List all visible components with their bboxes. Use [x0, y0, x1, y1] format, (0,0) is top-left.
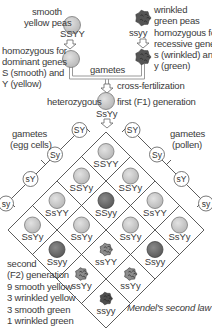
egg-gamete-sy: sY — [23, 172, 38, 187]
punnett-cell-ssyy: Ssyy — [47, 242, 68, 267]
cell-genotype-label: SSYy — [119, 182, 143, 193]
punnett-cell-ssyy: SSyy — [95, 193, 117, 218]
smooth-parent-desc-1: homozygous for — [2, 45, 67, 56]
svg-text:Sy: Sy — [152, 150, 163, 160]
svg-text:Sy: Sy — [50, 150, 61, 160]
wrinkled-parent-label-2: green peas — [154, 15, 200, 26]
f2-label-1: second — [7, 258, 36, 269]
smooth-parent-desc-3: S (smooth) and — [2, 67, 64, 78]
cell-genotype-label: ssYY — [95, 256, 118, 267]
punnett-cell-ssyy: SsYy — [119, 217, 141, 242]
egg-gametes-label-1: gametes — [12, 128, 47, 139]
cell-genotype-label: Ssyy — [47, 256, 68, 267]
cell-genotype-label: SsYy — [70, 231, 92, 242]
cell-genotype-label: SsYy — [168, 231, 190, 242]
cell-genotype-label: SSyy — [95, 207, 117, 218]
cell-genotype-label: ssYy — [71, 280, 92, 291]
f2-label-2: (F2) generation — [7, 269, 69, 280]
cell-genotype-label: SsYY — [143, 207, 167, 218]
pollen-gamete-sy: sy — [199, 196, 213, 211]
punnett-cell-ssyy: SsYY — [143, 193, 167, 218]
cell-genotype-label: SSYY — [93, 158, 119, 169]
pea-wrinkled-yellow — [125, 268, 137, 281]
pea-wrinkled-green-parent — [136, 10, 151, 26]
pea-wrinkled-green — [100, 292, 112, 305]
pollen-gametes-label-1: gametes — [170, 128, 205, 139]
f1-right-label: first (F1) generation — [117, 96, 196, 107]
wrinkled-parent-desc-4: y (green) — [154, 60, 190, 71]
punnett-cell-ssyy: ssYy — [71, 268, 92, 291]
svg-text:sY: sY — [177, 174, 187, 184]
smooth-parent-label-1: smooth — [32, 6, 62, 17]
wrinkled-parent-desc-1: homozygous for — [154, 27, 212, 38]
svg-text:sy: sy — [2, 199, 11, 209]
punnett-cell-ssyy: SsYy — [70, 217, 92, 242]
smooth-parent-label-2: yellow peas — [24, 17, 71, 28]
f2-result-2: 3 wrinkled yellow — [7, 292, 75, 303]
punnett-cell-ssyy: ssYy — [120, 268, 141, 291]
pea-wrinkled-green-parent-2 — [136, 49, 151, 65]
cell-genotype-label: SsYY — [45, 207, 69, 218]
f2-result-3: 3 smooth green — [7, 304, 70, 315]
smooth-parent-genotype: SSYY — [60, 28, 85, 39]
punnett-cell-ssyy: ssyy — [97, 292, 116, 315]
punnett-cell-ssyy: SsYy — [168, 217, 190, 242]
arrow-down-icon — [101, 119, 113, 128]
punnett-cell-ssyy: Ssyy — [145, 242, 166, 267]
punnett-cell-ssyy: SSYy — [70, 168, 94, 193]
punnett-cell-ssyy: SSYy — [119, 168, 143, 193]
cell-genotype-label: ssyy — [97, 305, 116, 316]
egg-gametes-label-2: (egg cells) — [10, 139, 52, 150]
cell-genotype-label: Ssyy — [145, 256, 166, 267]
cell-genotype-label: ssYy — [120, 280, 141, 291]
cell-genotype-label: SsYy — [119, 231, 141, 242]
svg-text:SY: SY — [74, 125, 86, 135]
punnett-cell-ssyy: SsYy — [21, 217, 43, 242]
pollen-gamete-sy: SY — [125, 123, 140, 138]
cross-fertilization-label: cross-fertilization — [117, 80, 184, 91]
arrow-down-icon — [101, 84, 113, 93]
wrinkled-parent-desc-3: s (wrinkled) and — [154, 49, 212, 60]
wrinkled-parent-genotype: ssyy — [129, 27, 147, 38]
wrinkled-parent-label-1: wrinkled — [154, 4, 187, 15]
f2-result-1: 9 smooth yellow — [7, 281, 72, 292]
pea-wrinkled-yellow — [76, 268, 88, 281]
punnett-cell-ssyy: ssYY — [95, 243, 118, 266]
pollen-gametes-label-2: (pollen) — [172, 139, 202, 150]
smooth-parent-desc-4: Y (yellow) — [2, 78, 42, 89]
svg-text:sy: sy — [202, 199, 211, 209]
pea-wrinkled-yellow — [100, 243, 112, 256]
pollen-gamete-sy: Sy — [150, 147, 165, 162]
wrinkled-parent-desc-2: recessive genes — [154, 38, 212, 49]
pollen-gamete-sy: sY — [174, 172, 189, 187]
cell-genotype-label: SSYy — [70, 182, 94, 193]
f1-left-label: heterozygous — [47, 96, 102, 107]
gametes-label: gametes — [90, 64, 125, 75]
svg-text:sY: sY — [26, 174, 36, 184]
smooth-parent-desc-2: dominant genes — [2, 56, 67, 67]
arrow-down-icon — [137, 39, 149, 48]
f2-result-4: 1 wrinkled green — [7, 315, 74, 326]
punnett-cell-ssyy: SsYY — [45, 193, 69, 218]
egg-gamete-sy: sy — [0, 196, 14, 211]
punnett-cell-ssyy: SSYY — [93, 144, 119, 169]
egg-gamete-sy: SY — [72, 123, 87, 138]
svg-text:SY: SY — [127, 125, 139, 135]
f1-genotype: SsYy — [96, 108, 117, 119]
caption: Mendel's second law — [127, 302, 211, 313]
cell-genotype-label: SsYy — [21, 231, 43, 242]
